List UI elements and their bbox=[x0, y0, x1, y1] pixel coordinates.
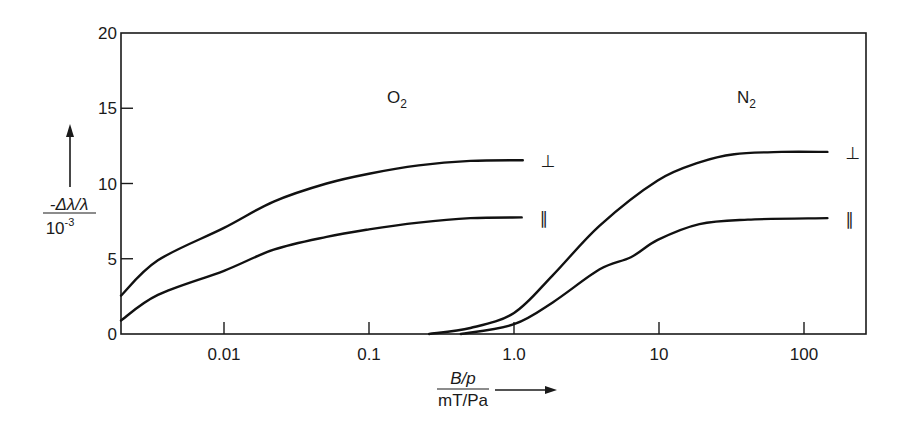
curve-o2-perpendicular bbox=[121, 160, 523, 295]
y-tick-label: 20 bbox=[98, 24, 117, 43]
o2-label: O2 bbox=[387, 88, 407, 111]
curve-o2-parallel bbox=[121, 217, 522, 320]
perpendicular-symbol: ⊥ bbox=[541, 152, 556, 171]
x-tick-label: 0.01 bbox=[207, 345, 240, 364]
chart: 05101520 0.010.11.010100 ⊥∥⊥∥ O2 N2 -Δλ/… bbox=[0, 0, 911, 427]
x-tick-label: 0.1 bbox=[357, 345, 381, 364]
x-axis-title-denominator: mT/Pa bbox=[438, 391, 489, 410]
n2-label: N2 bbox=[737, 88, 756, 111]
parallel-symbol: ∥ bbox=[845, 210, 854, 229]
y-axis-title: -Δλ/λ 10-3 bbox=[43, 124, 96, 238]
x-tick-label: 100 bbox=[790, 345, 818, 364]
arrow-right-icon bbox=[545, 386, 557, 394]
y-axis-title-numerator: -Δλ/λ bbox=[50, 195, 89, 214]
parallel-symbol: ∥ bbox=[540, 209, 549, 228]
x-axis-title-numerator: B/p bbox=[450, 369, 476, 388]
x-tick-label: 1.0 bbox=[502, 345, 526, 364]
x-axis-title: B/p mT/Pa bbox=[437, 369, 557, 410]
arrow-up-icon bbox=[66, 124, 74, 137]
x-axis-ticks: 0.010.11.010100 bbox=[207, 322, 818, 364]
curve-n2-parallel bbox=[461, 218, 828, 334]
plot-frame bbox=[121, 33, 866, 334]
data-curves bbox=[121, 152, 827, 334]
y-tick-label: 15 bbox=[98, 99, 117, 118]
curve-n2-perpendicular bbox=[429, 152, 827, 334]
y-axis-ticks: 05101520 bbox=[98, 24, 133, 344]
perpendicular-symbol: ⊥ bbox=[845, 144, 860, 163]
x-tick-label: 10 bbox=[650, 345, 669, 364]
y-tick-label: 5 bbox=[108, 250, 117, 269]
y-tick-label: 10 bbox=[98, 175, 117, 194]
y-axis-title-denominator: 10-3 bbox=[46, 216, 75, 238]
curve-end-labels: ⊥∥⊥∥ bbox=[540, 144, 861, 229]
y-tick-label: 0 bbox=[108, 325, 117, 344]
